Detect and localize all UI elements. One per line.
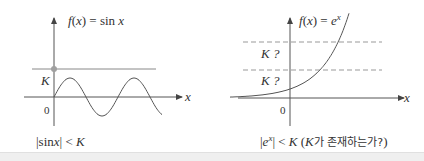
bottom-divider (0, 152, 424, 161)
left-origin-label: 0 (44, 104, 50, 116)
figure: f(x) = sin x K 0 x |sinx| < K f(x) = ex … (0, 0, 424, 161)
right-panel: f(x) = ex K ? K ? 0 x |ex| < K (K가 존재하는가… (230, 12, 410, 149)
left-bound-point (51, 66, 57, 72)
left-function-label: f(x) = sin x (68, 13, 124, 28)
left-caption: |sinx| < K (36, 134, 86, 149)
left-x-axis-label: x (184, 89, 191, 104)
right-function-label: f(x) = ex (299, 12, 341, 28)
right-caption: |ex| < K (K가 존재하는가?) (260, 133, 387, 149)
right-k-question-lower: K ? (260, 73, 280, 88)
right-x-axis-label: x (403, 90, 410, 105)
left-panel: f(x) = sin x K 0 x |sinx| < K (24, 13, 191, 149)
right-k-question-upper: K ? (260, 46, 280, 61)
left-k-label: K (40, 73, 51, 88)
right-origin-label: 0 (280, 104, 286, 116)
